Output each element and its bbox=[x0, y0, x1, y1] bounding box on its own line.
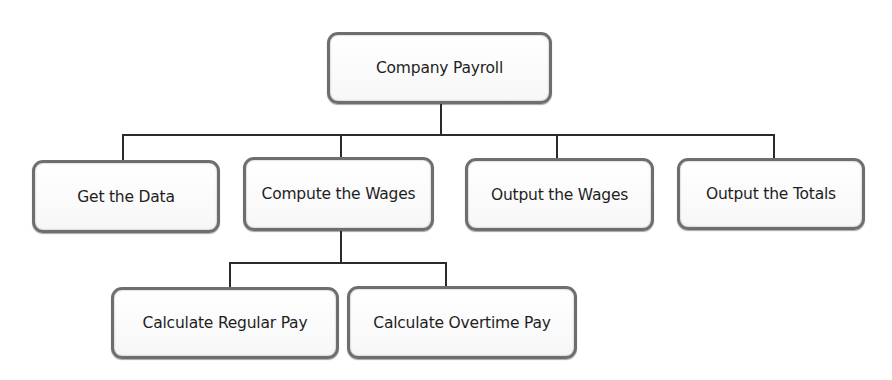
node-label: Get the Data bbox=[77, 188, 175, 206]
connector-compute-wages-down bbox=[340, 231, 342, 263]
connector-to-regular-pay bbox=[229, 262, 231, 287]
node-label: Calculate Regular Pay bbox=[143, 314, 308, 332]
node-output-the-wages: Output the Wages bbox=[465, 158, 654, 231]
connector-root-down bbox=[440, 104, 442, 135]
node-get-the-data: Get the Data bbox=[32, 160, 220, 233]
node-calculate-regular-pay: Calculate Regular Pay bbox=[111, 287, 339, 359]
connector-level1-bus bbox=[122, 134, 774, 136]
node-label: Company Payroll bbox=[376, 59, 503, 77]
connector-to-output-totals bbox=[773, 134, 775, 158]
connector-level2-bus bbox=[229, 262, 446, 264]
node-label: Calculate Overtime Pay bbox=[373, 314, 550, 332]
node-company-payroll: Company Payroll bbox=[327, 32, 552, 104]
node-label: Output the Totals bbox=[706, 185, 836, 203]
connector-to-get-data bbox=[122, 134, 124, 160]
node-label: Output the Wages bbox=[491, 186, 628, 204]
payroll-hierarchy-chart: Company Payroll Get the Data Compute the… bbox=[0, 0, 892, 380]
connector-to-compute-wages bbox=[340, 134, 342, 157]
node-compute-the-wages: Compute the Wages bbox=[243, 157, 434, 231]
connector-to-output-wages bbox=[556, 134, 558, 158]
connector-to-overtime-pay bbox=[445, 262, 447, 286]
node-label: Compute the Wages bbox=[262, 185, 416, 203]
node-output-the-totals: Output the Totals bbox=[677, 158, 865, 230]
node-calculate-overtime-pay: Calculate Overtime Pay bbox=[347, 286, 577, 359]
